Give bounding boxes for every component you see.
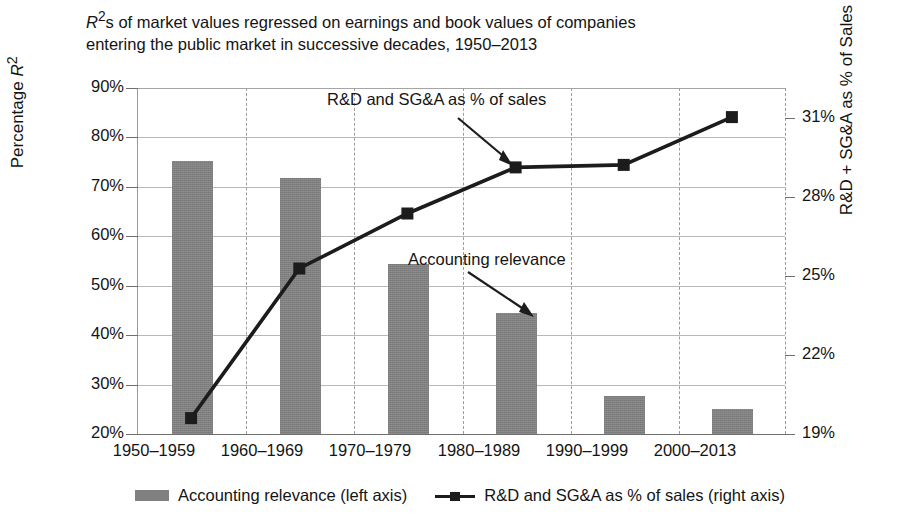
axis-baseline: [138, 434, 785, 435]
gridline-90: [138, 88, 785, 89]
ylabel-left-50: 50%: [62, 275, 124, 294]
legend-item-accounting-relevance: Accounting relevance (left axis): [135, 486, 407, 505]
gridline-70: [138, 187, 785, 188]
gridline-50: [138, 286, 785, 287]
chart-figure: R2s of market values regressed on earnin…: [0, 0, 920, 518]
gridline-80: [138, 137, 785, 138]
left-axis-title: Percentage R2: [4, 2, 29, 222]
legend-square-marker: [450, 492, 460, 501]
annotation-accounting-relevance: Accounting relevance: [408, 250, 566, 269]
gridline-60: [138, 236, 785, 237]
legend-item-rd-sga: R&D and SG&A as % of sales (right axis): [435, 486, 785, 505]
gridline-40: [138, 335, 785, 336]
ylabel-left-40: 40%: [62, 324, 124, 343]
legend-line-marker-icon: [435, 490, 475, 502]
ylabel-right-25: 25%: [802, 265, 864, 284]
ylabel-right-28: 28%: [802, 186, 864, 205]
chart-title: R2s of market values regressed on earnin…: [86, 6, 786, 55]
chart-legend: Accounting relevance (left axis) R&D and…: [0, 486, 920, 505]
xlabel-1990-1999: 1990–1999: [528, 441, 646, 460]
left-axis-title-sup: 2: [4, 56, 20, 64]
tick-right-25: [785, 276, 795, 277]
bar-1950-1959: [172, 161, 213, 434]
tick-right-28: [785, 197, 795, 198]
bar-1990-1999: [604, 396, 645, 434]
bar-1960-1969: [280, 178, 321, 434]
legend-label-rd-sga: R&D and SG&A as % of sales (right axis): [484, 486, 785, 505]
bar-2000-2013: [712, 409, 753, 434]
tick-right-22: [785, 355, 795, 356]
ylabel-right-31: 31%: [802, 107, 864, 126]
vgridline-5: [679, 88, 680, 434]
tick-right-19: [785, 434, 795, 435]
tick-left-30: [126, 385, 138, 386]
title-rest: s of market values regressed on earnings…: [86, 13, 636, 53]
ylabel-left-80: 80%: [62, 126, 124, 145]
title-superscript: 2: [98, 9, 106, 24]
xlabel-2000-2013: 2000–2013: [636, 441, 754, 460]
ylabel-left-30: 30%: [62, 374, 124, 393]
ylabel-left-20: 20%: [62, 423, 124, 442]
ylabel-right-22: 22%: [802, 344, 864, 363]
tick-left-70: [126, 187, 138, 188]
tick-right-31: [785, 118, 795, 119]
tick-left-60: [126, 236, 138, 237]
vgridline-4: [571, 88, 572, 434]
legend-label-accounting-relevance: Accounting relevance (left axis): [178, 486, 407, 505]
left-axis-title-prefix: Percentage: [8, 77, 27, 169]
bar-1980-1989: [496, 313, 537, 434]
gridline-30: [138, 385, 785, 386]
tick-left-50: [126, 286, 138, 287]
tick-left-40: [126, 335, 138, 336]
tick-left-80: [126, 137, 138, 138]
xlabel-1980-1989: 1980–1989: [420, 441, 538, 460]
ylabel-left-60: 60%: [62, 225, 124, 244]
bar-1970-1979: [388, 264, 429, 434]
tick-left-20: [126, 434, 138, 435]
xlabel-1950-1959: 1950–1959: [95, 441, 213, 460]
vgridline-2: [354, 88, 355, 434]
title-r-symbol: R: [86, 13, 98, 31]
ylabel-left-90: 90%: [62, 77, 124, 96]
ylabel-right-19: 19%: [802, 423, 864, 442]
tick-left-90: [126, 88, 138, 89]
left-axis-title-r: R: [8, 64, 27, 76]
xlabel-1960-1969: 1960–1969: [203, 441, 321, 460]
ylabel-left-70: 70%: [62, 176, 124, 195]
vgridline-1: [246, 88, 247, 434]
legend-bar-swatch-icon: [135, 490, 169, 501]
annotation-rd-sga: R&D and SG&A as % of sales: [327, 90, 546, 109]
xlabel-1970-1979: 1970–1979: [311, 441, 429, 460]
